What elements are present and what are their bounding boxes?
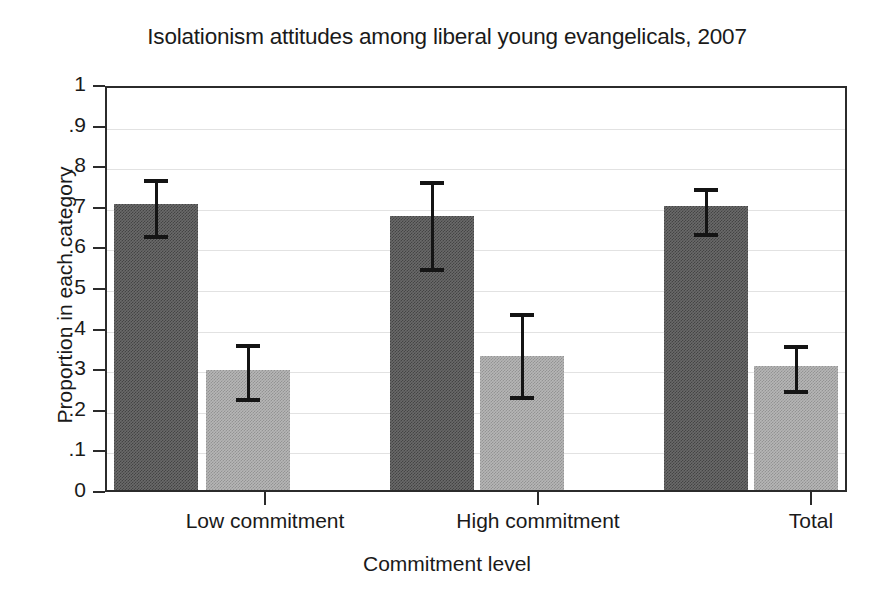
error-bar-cap-upper	[236, 344, 260, 348]
error-bar	[480, 313, 564, 400]
error-bar-cap-upper	[784, 345, 808, 349]
y-axis-tick-label: .6	[24, 234, 86, 258]
error-bar-cap-upper	[144, 179, 168, 183]
x-axis-title: Commitment level	[0, 552, 894, 576]
error-bar-stem	[247, 344, 250, 402]
y-axis-tick-label: .3	[24, 356, 86, 380]
error-bar-cap-lower	[144, 235, 168, 239]
error-bar-cap-lower	[236, 398, 260, 402]
error-bar-stem	[795, 345, 798, 394]
error-bar-stem	[155, 179, 158, 239]
error-bar-cap-lower	[510, 396, 534, 400]
y-axis-tick	[93, 207, 105, 209]
y-axis-tick-label: 1	[24, 72, 86, 96]
error-bar	[754, 345, 838, 394]
error-bar-cap-upper	[694, 188, 718, 192]
bar	[114, 204, 198, 490]
chart-figure: Isolationism attitudes among liberal you…	[0, 0, 894, 593]
y-axis-tick	[93, 410, 105, 412]
y-axis-tick-label: .2	[24, 397, 86, 421]
y-axis-tick-label: .1	[24, 437, 86, 461]
error-bar	[390, 181, 474, 272]
error-bar-cap-lower	[420, 268, 444, 272]
x-axis-tick-label: Low commitment	[135, 509, 395, 533]
y-axis-tick-label: .8	[24, 153, 86, 177]
error-bar-stem	[705, 188, 708, 237]
chart-title: Isolationism attitudes among liberal you…	[0, 24, 894, 50]
error-bar-cap-upper	[510, 313, 534, 317]
x-axis-tick-label: High commitment	[408, 509, 668, 533]
gridline	[107, 169, 845, 170]
error-bar	[664, 188, 748, 237]
plot-area	[105, 86, 847, 492]
y-axis-tick-label: .4	[24, 316, 86, 340]
error-bar-cap-lower	[694, 233, 718, 237]
error-bar-cap-lower	[784, 390, 808, 394]
error-bar-stem	[431, 181, 434, 272]
y-axis-tick	[93, 247, 105, 249]
gridline	[107, 129, 845, 130]
error-bar	[206, 344, 290, 402]
y-axis-tick-label: 0	[24, 478, 86, 502]
x-axis-tick	[537, 492, 539, 505]
y-axis-tick-label: .9	[24, 113, 86, 137]
y-axis-tick	[93, 85, 105, 87]
y-axis-tick	[93, 166, 105, 168]
error-bar-stem	[521, 313, 524, 400]
y-axis-tick-label: .7	[24, 194, 86, 218]
error-bar-cap-upper	[420, 181, 444, 185]
y-axis-tick	[93, 329, 105, 331]
x-axis-tick	[810, 492, 812, 505]
error-bar	[114, 179, 198, 239]
y-axis-tick-label: .5	[24, 275, 86, 299]
bar	[664, 206, 748, 490]
y-axis-tick	[93, 369, 105, 371]
y-axis-tick	[93, 491, 105, 493]
y-axis-tick	[93, 126, 105, 128]
y-axis-tick	[93, 450, 105, 452]
y-axis-tick	[93, 288, 105, 290]
x-axis-tick-label: Total	[681, 509, 894, 533]
x-axis-tick	[264, 492, 266, 505]
